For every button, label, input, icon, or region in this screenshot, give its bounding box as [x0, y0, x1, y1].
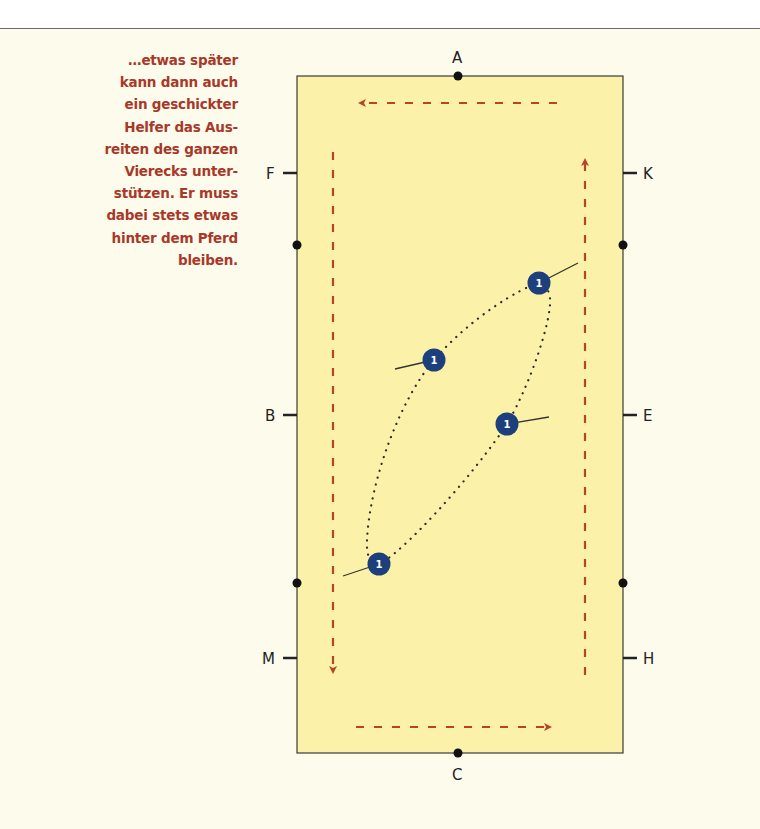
marker-F: F	[266, 165, 275, 183]
svg-text:1: 1	[431, 355, 438, 366]
dot-right-lower	[619, 579, 628, 588]
dot-C	[454, 749, 463, 758]
svg-text:1: 1	[504, 419, 511, 430]
dot-right-upper	[619, 241, 628, 250]
marker-E: E	[643, 407, 652, 425]
marker-K: K	[643, 165, 654, 183]
dot-left-upper	[293, 241, 302, 250]
svg-text:1: 1	[536, 278, 543, 289]
marker-A: A	[452, 49, 463, 67]
arena-diagram: A C F B M K E H 1 1 1 1	[0, 0, 760, 829]
marker-M: M	[262, 650, 275, 668]
marker-H: H	[643, 650, 654, 668]
arena-rectangle	[297, 76, 623, 753]
dot-left-lower	[293, 579, 302, 588]
marker-B: B	[265, 407, 275, 425]
marker-C: C	[452, 766, 462, 784]
svg-text:1: 1	[376, 559, 383, 570]
dot-A	[454, 72, 463, 81]
